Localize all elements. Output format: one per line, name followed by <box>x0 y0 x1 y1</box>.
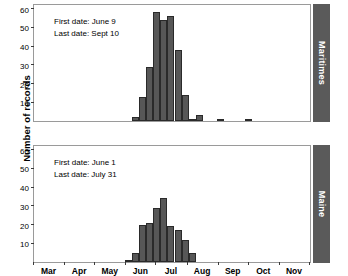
bar <box>160 198 167 262</box>
x-tick-mark <box>94 262 95 265</box>
bar <box>175 230 182 262</box>
y-tick-label: 40 <box>20 184 29 193</box>
y-tick-mark <box>31 205 34 206</box>
annotation-maine: First date: June 1 Last date: July 31 <box>54 157 117 181</box>
bar <box>139 225 146 262</box>
x-tick-mark <box>279 262 280 265</box>
x-tick-label: Jun <box>133 266 148 276</box>
y-tick-mark <box>31 149 34 150</box>
last-date-text: Last date: Sept 10 <box>54 28 119 40</box>
bar <box>146 67 153 121</box>
y-tick-mark <box>31 83 34 84</box>
y-tick-mark <box>31 102 34 103</box>
y-tick-label: 50 <box>20 165 29 174</box>
bar <box>153 208 160 262</box>
y-tick-label: 10 <box>20 240 29 249</box>
y-tick-mark <box>31 8 34 9</box>
y-tick-label: 50 <box>20 24 29 33</box>
bar <box>125 260 132 262</box>
bar <box>132 253 139 262</box>
x-tick-label: Mar <box>41 266 56 276</box>
x-tick-label: Jul <box>165 266 177 276</box>
strip-label-text: Maritimes <box>317 41 327 85</box>
y-tick-label: 30 <box>20 62 29 71</box>
y-tick-label: 30 <box>20 203 29 212</box>
bar <box>245 119 252 121</box>
bar <box>146 223 153 262</box>
y-tick-mark <box>31 27 34 28</box>
y-tick-mark <box>31 168 34 169</box>
bar <box>160 20 167 121</box>
bar <box>132 117 139 121</box>
y-tick-mark <box>31 224 34 225</box>
y-tick-mark <box>31 64 34 65</box>
x-tick-mark <box>33 262 34 265</box>
x-tick-mark <box>218 262 219 265</box>
x-tick-label: Sep <box>225 266 241 276</box>
y-tick-label: 40 <box>20 43 29 52</box>
strip-label-maritimes: Maritimes <box>313 4 330 122</box>
x-tick-label: May <box>101 266 118 276</box>
bar <box>167 226 174 262</box>
bar <box>139 97 146 121</box>
x-tick-mark <box>155 262 156 265</box>
bar <box>167 16 174 121</box>
first-date-text: First date: June 9 <box>54 16 119 28</box>
bar <box>153 12 160 121</box>
x-tick-mark <box>125 262 126 265</box>
strip-label-text: Maine <box>317 191 327 218</box>
bar <box>182 240 189 262</box>
y-tick-label: 10 <box>20 99 29 108</box>
y-tick-label: 60 <box>20 147 29 156</box>
bar <box>175 50 182 121</box>
x-tick-label: Nov <box>286 266 302 276</box>
x-axis: MarAprMayJunJulAugSepOctNov <box>33 263 311 276</box>
bar <box>189 253 196 262</box>
x-tick-mark <box>64 262 65 265</box>
x-tick-mark <box>187 262 188 265</box>
last-date-text: Last date: July 31 <box>54 169 117 181</box>
bar <box>182 95 189 121</box>
y-tick-mark <box>31 187 34 188</box>
x-tick-label: Apr <box>72 266 87 276</box>
x-tick-label: Aug <box>194 266 211 276</box>
x-tick-mark <box>309 262 310 265</box>
x-tick-label: Oct <box>256 266 270 276</box>
y-tick-mark <box>31 243 34 244</box>
first-date-text: First date: June 1 <box>54 157 117 169</box>
bar <box>189 119 196 121</box>
bar <box>196 115 203 121</box>
figure: Number of records 102030405060 Maritimes… <box>0 0 348 276</box>
annotation-maritimes: First date: June 9 Last date: Sept 10 <box>54 16 119 40</box>
y-tick-label: 20 <box>20 222 29 231</box>
bar <box>217 119 224 121</box>
y-tick-label: 20 <box>20 81 29 90</box>
x-tick-mark <box>248 262 249 265</box>
strip-label-maine: Maine <box>313 145 330 263</box>
y-tick-label: 60 <box>20 6 29 15</box>
y-tick-mark <box>31 46 34 47</box>
